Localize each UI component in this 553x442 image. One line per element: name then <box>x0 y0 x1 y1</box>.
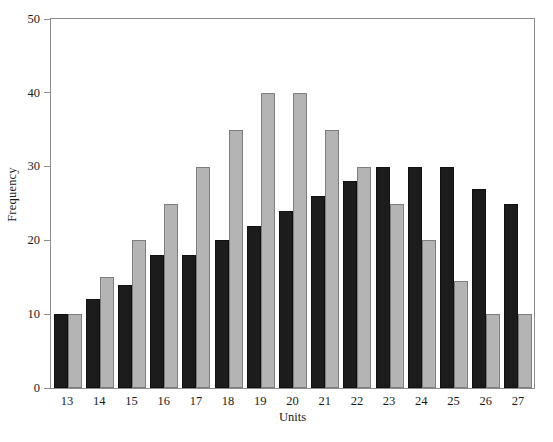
bar-group <box>83 19 115 388</box>
bar-light-16 <box>164 204 178 389</box>
x-axis-tick-label: 20 <box>276 392 308 410</box>
y-axis-tick-label: 50 <box>28 13 45 26</box>
x-axis-title: Units <box>51 410 534 425</box>
bar-light-20 <box>293 93 307 388</box>
y-axis-ticks: 01020304050 <box>0 0 50 389</box>
bar-light-21 <box>325 130 339 388</box>
bar-dark-23 <box>376 167 390 388</box>
bar-dark-19 <box>247 226 261 388</box>
bar-group <box>51 19 83 388</box>
x-axis-tick-label: 23 <box>373 392 405 410</box>
bar-light-25 <box>454 281 468 388</box>
bar-group <box>244 19 276 388</box>
x-axis-tick-label: 14 <box>83 392 115 410</box>
bar-group <box>373 19 405 388</box>
y-axis-tick-label: 10 <box>28 308 45 321</box>
y-axis-tick-label: 30 <box>28 160 45 173</box>
x-axis-tick-label: 25 <box>437 392 469 410</box>
bar-dark-17 <box>182 255 196 388</box>
bar-light-24 <box>422 240 436 388</box>
x-axis-tick-label: 21 <box>309 392 341 410</box>
x-axis-title-label: Units <box>279 410 306 424</box>
bar-dark-25 <box>440 167 454 388</box>
bar-dark-16 <box>150 255 164 388</box>
bar-dark-21 <box>311 196 325 388</box>
y-axis-tick-label: 0 <box>34 382 44 395</box>
bar-light-18 <box>229 130 243 388</box>
bar-dark-26 <box>472 189 486 388</box>
bar-light-19 <box>261 93 275 388</box>
bar-light-23 <box>390 204 404 389</box>
x-axis-tick-label: 26 <box>470 392 502 410</box>
y-axis-tick-label: 40 <box>28 87 45 100</box>
bar-group <box>341 19 373 388</box>
y-axis-tick-label: 20 <box>28 234 45 247</box>
bar-dark-20 <box>279 211 293 388</box>
bar-light-15 <box>132 240 146 388</box>
x-axis-tick-label: 19 <box>244 392 276 410</box>
x-axis-tick-label: 24 <box>405 392 437 410</box>
x-axis-tick-label: 27 <box>502 392 534 410</box>
x-axis-tick-label: 15 <box>115 392 147 410</box>
bar-light-14 <box>100 277 114 388</box>
bar-group <box>309 19 341 388</box>
bar-group <box>470 19 502 388</box>
bar-light-22 <box>357 167 371 388</box>
bar-light-13 <box>68 314 82 388</box>
x-axis-ticks: 131415161718192021222324252627 <box>51 392 534 412</box>
bar-group <box>148 19 180 388</box>
bar-dark-27 <box>504 204 518 389</box>
bar-group <box>212 19 244 388</box>
bar-dark-18 <box>215 240 229 388</box>
bar-light-26 <box>486 314 500 388</box>
bar-chart: Frequency 01020304050 131415161718192021… <box>0 0 553 442</box>
bar-dark-14 <box>86 299 100 388</box>
x-axis-tick-label: 13 <box>51 392 83 410</box>
bar-light-27 <box>518 314 532 388</box>
bar-group <box>180 19 212 388</box>
bars-layer <box>51 19 534 388</box>
bar-dark-13 <box>54 314 68 388</box>
x-axis-tick-label: 22 <box>341 392 373 410</box>
bar-group <box>502 19 534 388</box>
bar-light-17 <box>196 167 210 388</box>
bar-dark-24 <box>408 167 422 388</box>
bar-group <box>405 19 437 388</box>
bar-group <box>115 19 147 388</box>
bar-group <box>437 19 469 388</box>
bar-dark-22 <box>343 181 357 388</box>
x-axis-tick-label: 17 <box>180 392 212 410</box>
x-axis-tick-label: 16 <box>148 392 180 410</box>
x-axis-tick-label: 18 <box>212 392 244 410</box>
bar-group <box>276 19 308 388</box>
bar-dark-15 <box>118 285 132 388</box>
